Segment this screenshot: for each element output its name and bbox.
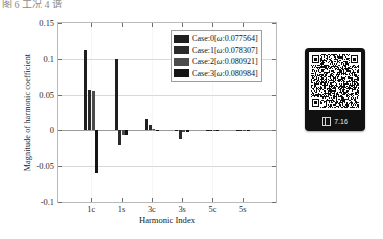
chart-bar	[236, 130, 239, 131]
qr-code-panel[interactable]: 7.16	[305, 48, 365, 131]
y-tick-label: 0.05	[39, 90, 54, 99]
gridline	[91, 23, 92, 202]
x-tick-mark	[152, 23, 153, 27]
legend-label: Case:2[ω:0.080921]	[192, 57, 258, 66]
y-tick-mark	[58, 130, 62, 131]
legend-item[interactable]: Case:1[ω:0.078307]	[174, 45, 258, 57]
x-axis-label: Harmonic Index	[57, 215, 277, 225]
legend-swatch	[174, 58, 189, 66]
legend-swatch	[174, 46, 189, 54]
x-tick-label: 3c	[148, 205, 156, 214]
y-tick-mark	[272, 202, 276, 203]
x-tick-mark	[122, 198, 123, 202]
chart-bar	[186, 130, 189, 131]
legend-item[interactable]: Case:2[ω:0.080921]	[174, 56, 258, 68]
qr-footer: 7.16	[305, 111, 365, 131]
y-tick-mark	[58, 95, 62, 96]
chart-bar	[118, 130, 121, 144]
y-tick-mark	[272, 23, 276, 24]
y-tick-mark	[58, 59, 62, 60]
chart-bar	[122, 130, 125, 135]
x-tick-label: 3s	[178, 205, 185, 214]
chart-bar	[247, 130, 250, 131]
chart-bar	[175, 130, 178, 131]
qr-footer-label: 7.16	[334, 118, 348, 125]
chart-bar	[239, 130, 242, 131]
x-tick-mark	[91, 198, 92, 202]
x-tick-label: 1s	[118, 205, 125, 214]
scan-icon	[322, 117, 331, 126]
y-tick-mark	[272, 130, 276, 131]
legend-label: Case:1[ω:0.078307]	[192, 46, 258, 55]
y-tick-mark	[58, 166, 62, 167]
x-tick-mark	[243, 23, 244, 27]
qr-code-image[interactable]	[309, 52, 361, 110]
y-tick-mark	[272, 95, 276, 96]
x-tick-mark	[212, 23, 213, 27]
legend-label: Case:0[ω:0.077564]	[192, 34, 258, 43]
x-tick-mark	[212, 198, 213, 202]
x-tick-mark	[243, 198, 244, 202]
x-tick-mark	[122, 23, 123, 27]
chart-bar	[206, 130, 209, 131]
y-tick-mark	[272, 166, 276, 167]
gridline	[152, 23, 153, 202]
chart-bar	[84, 50, 87, 130]
legend-label: Case:3[ω:0.080984]	[192, 69, 258, 78]
chart-bar	[216, 130, 219, 131]
x-tick-label: 5c	[208, 205, 216, 214]
chart-bar	[115, 59, 118, 131]
harmonic-coefficient-chart: Magnitude of harmonic coefficient 0.150.…	[0, 8, 290, 239]
y-tick-label: -0.05	[37, 162, 54, 171]
chart-legend: Case:0[ω:0.077564]Case:1[ω:0.078307]Case…	[171, 30, 262, 82]
y-tick-label: 0.1	[44, 54, 54, 63]
x-tick-mark	[152, 198, 153, 202]
x-tick-mark	[182, 23, 183, 27]
y-tick-mark	[58, 23, 62, 24]
chart-bar	[179, 130, 182, 139]
qr-code-canvas	[311, 54, 359, 108]
y-tick-label: -0.1	[41, 198, 54, 207]
y-tick-mark	[272, 59, 276, 60]
chart-bar	[182, 130, 185, 131]
chart-bar	[145, 119, 148, 130]
chart-bar	[125, 130, 128, 134]
y-tick-label: 0	[50, 126, 54, 135]
caption-fragment: 图 6 工况 4 谐	[2, 0, 72, 8]
legend-item[interactable]: Case:3[ω:0.080984]	[174, 68, 258, 80]
y-tick-mark	[58, 202, 62, 203]
legend-swatch	[174, 69, 189, 77]
y-axis-label: Magnitude of harmonic coefficient	[23, 23, 32, 203]
y-tick-label: 0.15	[39, 19, 54, 28]
chart-bar	[243, 130, 246, 131]
x-tick-mark	[182, 198, 183, 202]
legend-swatch	[174, 35, 189, 43]
legend-item[interactable]: Case:0[ω:0.077564]	[174, 33, 258, 45]
chart-bar	[156, 130, 159, 131]
x-tick-label: 5s	[239, 205, 246, 214]
x-tick-mark	[91, 23, 92, 27]
x-tick-label: 1c	[87, 205, 95, 214]
chart-bar	[95, 130, 98, 173]
